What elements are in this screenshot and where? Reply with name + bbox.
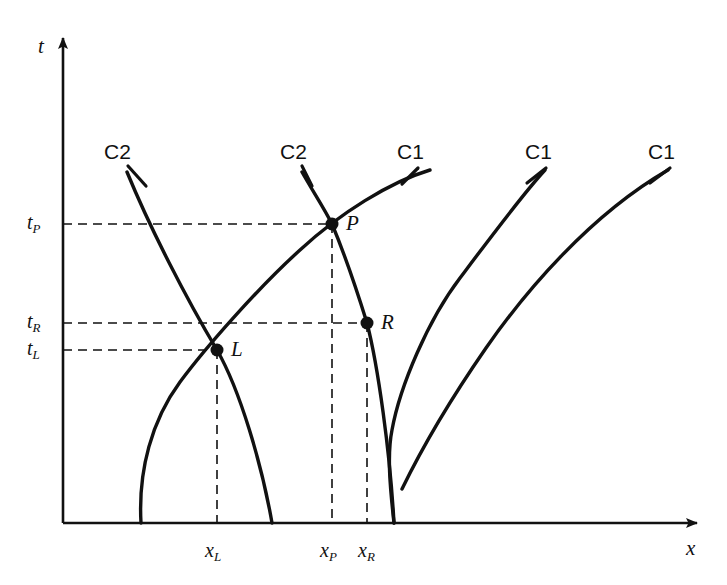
y-tick-label-tP: tP — [27, 212, 41, 232]
curve-c1-c-c1 — [402, 170, 668, 489]
curve-label-leader-4 — [650, 168, 670, 183]
diagram-svg — [0, 0, 727, 585]
curve-family-label-c1-2: C1 — [397, 141, 424, 162]
x-tick-label-xR: xR — [358, 540, 375, 560]
dashed-guide-group — [63, 224, 367, 523]
curve-family-label-c1-3: C1 — [525, 141, 552, 162]
point-label-p: P — [346, 213, 359, 234]
x-tick-label-xP: xP — [320, 540, 337, 560]
x-tick-label-xL: xL — [205, 540, 221, 560]
y-axis-label: t — [38, 36, 44, 57]
figure-canvas: txtPtRtLxLxPxRC2C2C1C1C1PRL — [0, 0, 727, 585]
y-tick-label-tL: tL — [27, 338, 40, 358]
x-axis-label: x — [686, 538, 695, 559]
point-marker-l — [211, 344, 224, 357]
point-label-r: R — [381, 312, 394, 333]
curve-c1-a-c1 — [141, 170, 430, 523]
characteristic-curves-group — [127, 170, 668, 523]
axes-group — [63, 38, 697, 523]
curve-family-label-c1-4: C1 — [648, 141, 675, 162]
point-marker-r — [361, 317, 374, 330]
y-tick-label-tR: tR — [27, 311, 41, 331]
curve-family-label-c2-1: C2 — [280, 141, 307, 162]
point-label-l: L — [231, 339, 243, 360]
point-marker-p — [326, 218, 339, 231]
intersection-points-group — [211, 218, 374, 357]
curve-family-label-c2-0: C2 — [104, 141, 131, 162]
